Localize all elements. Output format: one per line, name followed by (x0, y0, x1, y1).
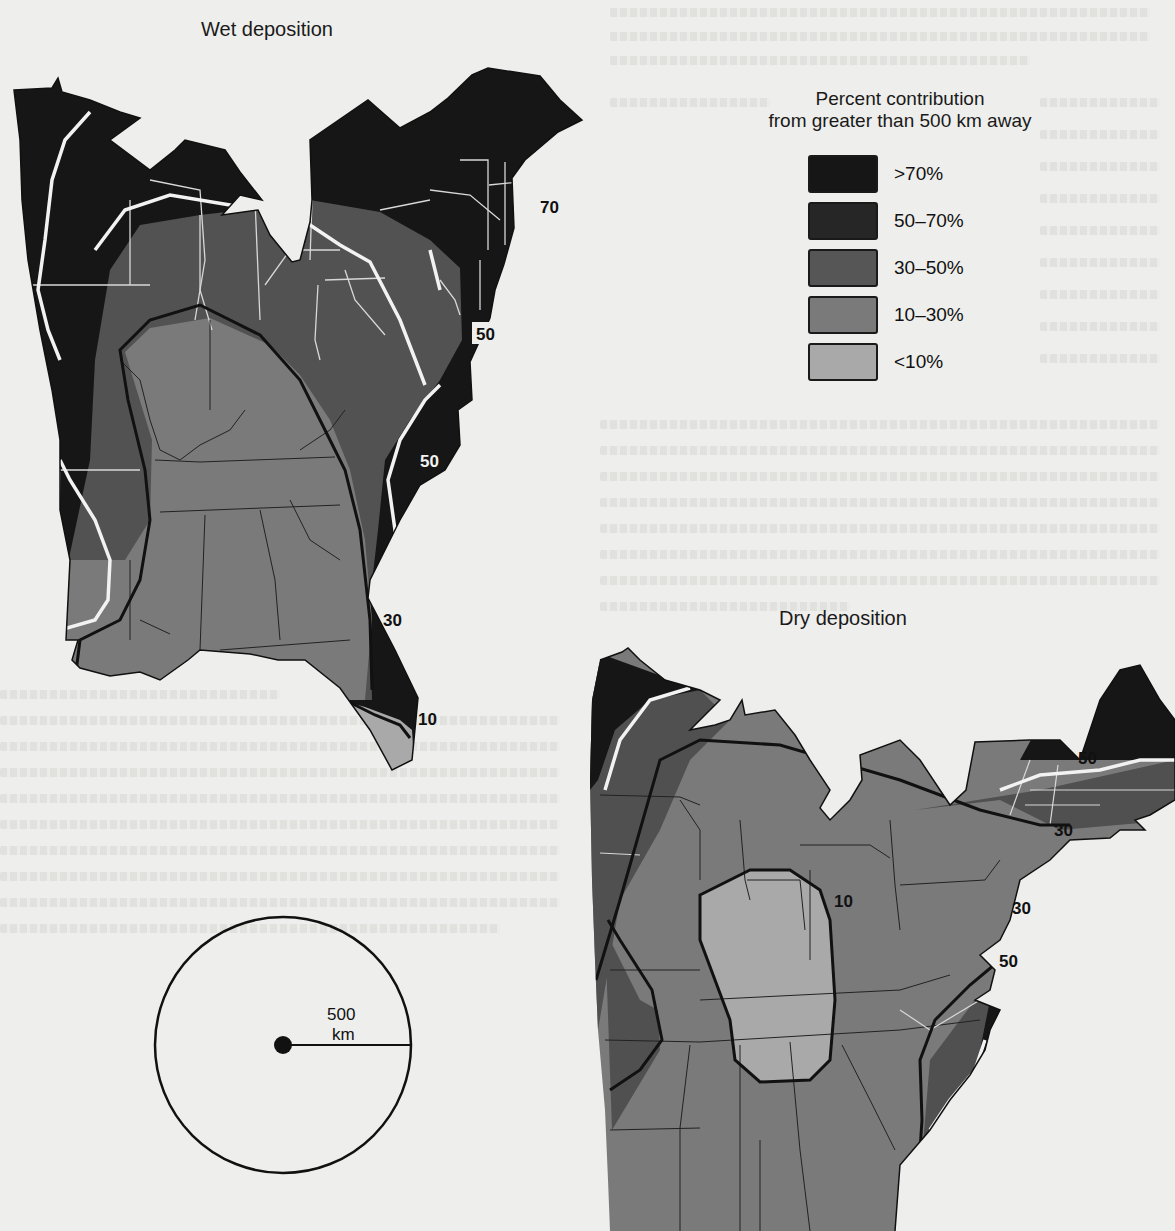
contour-label: 30 (1054, 821, 1073, 840)
contour-label: 50 (420, 452, 439, 471)
contour-label: 30 (1012, 899, 1031, 918)
maps-canvas: 70 50 50 30 10 (0, 0, 1175, 1231)
contour-label: 10 (418, 710, 437, 729)
contour-label: 70 (540, 198, 559, 217)
contour-label: 30 (383, 611, 402, 630)
scale-value: 500 (327, 1005, 355, 1024)
contour-label: 50 (1078, 749, 1097, 768)
dry-deposition-map: 50 30 30 50 10 (590, 640, 1175, 1231)
scale-unit: km (332, 1025, 355, 1044)
contour-label: 10 (834, 892, 853, 911)
scale-center-dot (274, 1036, 292, 1054)
contour-label: 50 (476, 325, 495, 344)
contour-label: 50 (999, 952, 1018, 971)
scale-circle: 500 km (155, 917, 411, 1173)
wet-deposition-map: 70 50 50 30 10 (0, 60, 600, 780)
